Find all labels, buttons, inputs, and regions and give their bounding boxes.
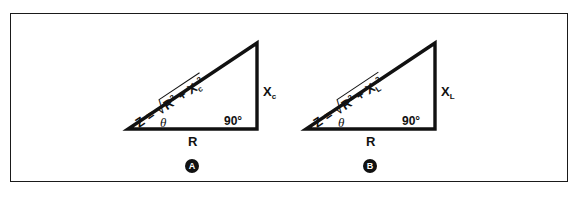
triangle-b-reactance-symbol: X (441, 84, 450, 99)
triangle-b-vertical-leg-label: XL (441, 85, 455, 98)
triangle-b-horizontal-leg-label: R (366, 135, 375, 148)
triangle-a-theta-label: θ (160, 116, 166, 129)
panel-label-badge-b: B (363, 159, 377, 173)
figure-border-frame: Z = √ R2 + Xc2 Xc R 90° θ (10, 13, 568, 182)
figure-root: Z = √ R2 + Xc2 Xc R 90° θ (0, 0, 579, 198)
impedance-triangle-panel-b: Z = √ R2 + XL2 XL R 90° θ B (189, 14, 479, 198)
triangle-b-reactance-subscript: L (450, 92, 455, 101)
formula-b-term2-exponent: 2 (374, 75, 383, 85)
triangle-b-theta-label: θ (338, 116, 344, 129)
triangle-b-right-angle-label: 90° (402, 115, 420, 127)
